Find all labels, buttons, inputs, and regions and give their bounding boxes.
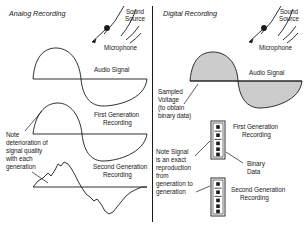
- analog-audio-signal-label: Audio Signal: [94, 66, 129, 74]
- analog-first-generation-label-line2: Recording: [103, 119, 132, 127]
- digital-second-generation-label-line2: Recording: [240, 194, 269, 202]
- digital-sampled-voltage-line4: binary data): [158, 112, 191, 120]
- analog-first-generation-label-line1: First Generation: [94, 111, 139, 119]
- analog-note-line3: signal quality: [6, 147, 42, 155]
- analog-note-line5: generation: [6, 163, 36, 171]
- digital-note-line5: generation to: [156, 180, 193, 188]
- digital-panel-title: Digital Recording: [163, 10, 217, 18]
- digital-second-generation-label-line1: Second Generation: [231, 186, 285, 194]
- binary-strip-first-generation: [211, 121, 225, 159]
- analog-microphone-icon: [92, 25, 110, 43]
- digital-note-line1: Note Signal: [156, 148, 189, 156]
- analog-note-line2: deterioration of: [6, 139, 48, 147]
- analog-second-generation-label-line2: Recording: [103, 171, 132, 179]
- analog-note-line4: with each: [6, 155, 33, 163]
- digital-sampled-voltage-line1: Sampled: [158, 88, 183, 96]
- recording-comparison-diagram: Analog Recording Sound Source Microphone…: [0, 0, 306, 228]
- digital-note-line2: is an exact: [156, 156, 186, 164]
- digital-sound-source-label-line2: Source: [272, 15, 306, 23]
- digital-note-line4: from: [156, 172, 169, 180]
- analog-sound-source-label-line2: Source: [118, 15, 152, 23]
- digital-note-line3: reproduction: [156, 164, 191, 172]
- binary-data-label-line1: Binary: [247, 160, 265, 168]
- binary-strip-second-generation: [211, 178, 225, 216]
- digital-microphone-icon: [249, 25, 267, 43]
- analog-second-generation-label-line1: Second Generation: [93, 163, 147, 171]
- digital-sampled-voltage-line2: Voltage: [158, 96, 179, 104]
- analog-note-line1: Note: [6, 131, 19, 139]
- digital-microphone-label: Microphone: [259, 44, 292, 52]
- digital-audio-signal-wave: [190, 52, 302, 108]
- analog-microphone-label: Microphone: [104, 44, 137, 52]
- digital-sampled-voltage-line3: (to obtain: [158, 104, 184, 112]
- analog-audio-signal-wave: [33, 48, 147, 106]
- binary-data-label-line2: Data: [247, 168, 260, 176]
- digital-first-generation-label-line2: Recording: [242, 131, 271, 139]
- digital-note-line6: generation: [156, 188, 186, 196]
- analog-panel-title: Analog Recording: [9, 10, 65, 18]
- digital-sampled-voltage-leader: [184, 84, 198, 104]
- digital-first-generation-label-line1: First Generation: [233, 123, 278, 131]
- digital-audio-signal-label: Audio Signal: [249, 69, 284, 77]
